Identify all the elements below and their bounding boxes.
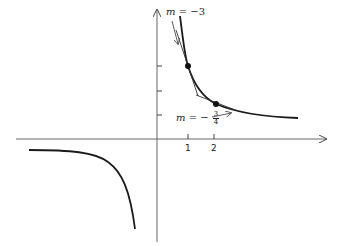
slope-var: m (166, 6, 175, 17)
equals-sign: = (189, 112, 197, 123)
equals-sign: = (179, 6, 187, 17)
diagram-canvas (0, 0, 340, 246)
tangent-line-x1 (176, 30, 198, 96)
minus-sign: − (200, 112, 208, 123)
tangent-label-upper: m = −3 (166, 7, 205, 17)
point-x1 (185, 63, 191, 69)
hyperbola-right-branch (180, 16, 298, 118)
tangent-label-lower: m = − 3 4 (176, 111, 219, 126)
x-tick-label-1: 1 (185, 144, 191, 153)
hyperbola-left-branch (29, 150, 135, 229)
slope-value: −3 (190, 6, 205, 17)
slope-fraction: 3 4 (213, 111, 219, 126)
slope-var: m (176, 112, 185, 123)
x-tick-label-2: 2 (211, 144, 217, 153)
fraction-denominator: 4 (213, 119, 219, 126)
point-x2 (213, 101, 219, 107)
